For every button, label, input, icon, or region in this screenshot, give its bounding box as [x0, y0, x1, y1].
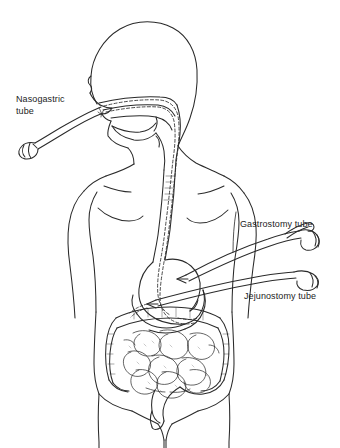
large-intestine — [106, 307, 229, 429]
enteral-feeding-diagram: Nasogastric tube Gastrostomy tube Jejuno… — [0, 0, 340, 448]
head-profile — [88, 22, 197, 164]
pelvis — [99, 394, 229, 440]
stomach — [139, 259, 205, 324]
label-gastrostomy-tube: Gastrostomy tube — [240, 218, 313, 230]
esophagus — [153, 160, 176, 262]
label-nasogastric-tube: Nasogastric tube — [16, 93, 65, 117]
small-intestine — [123, 330, 219, 398]
gastrostomy-leader-line — [233, 212, 236, 252]
mouth-and-tongue — [111, 116, 172, 140]
label-jejunostomy-tube: Jejunostomy tube — [244, 290, 316, 302]
gastrostomy-tube — [177, 223, 319, 283]
nasal-passage — [99, 97, 177, 116]
